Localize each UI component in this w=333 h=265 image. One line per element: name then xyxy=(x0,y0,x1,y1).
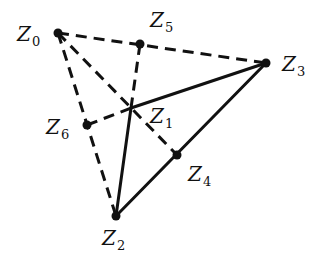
node-label-letter: Z xyxy=(282,52,296,76)
node-label-z3: Z3 xyxy=(282,54,305,74)
node-dot-z4 xyxy=(173,151,182,160)
node-label-subscript: 1 xyxy=(165,116,173,131)
edge-z6-z1-dashed xyxy=(87,108,131,125)
node-label-z5: Z5 xyxy=(150,10,173,30)
node-label-subscript: 3 xyxy=(297,64,305,79)
node-label-letter: Z xyxy=(46,115,60,139)
node-label-subscript: 6 xyxy=(61,127,69,142)
node-dot-z2 xyxy=(112,212,121,221)
edge-z1-z2-solid xyxy=(116,108,131,216)
node-dot-z0 xyxy=(54,29,63,38)
edge-z2-z3-solid xyxy=(116,63,266,216)
node-label-subscript: 4 xyxy=(203,174,211,189)
edge-z0-z3-dashed xyxy=(58,33,266,63)
node-dot-z3 xyxy=(262,59,271,68)
node-label-subscript: 5 xyxy=(165,20,173,35)
node-label-letter: Z xyxy=(150,8,164,32)
node-label-subscript: 2 xyxy=(117,238,125,253)
edge-z5-z1-dashed xyxy=(131,44,140,108)
node-dot-z6 xyxy=(83,121,92,130)
node-label-z4: Z4 xyxy=(188,164,211,184)
node-label-letter: Z xyxy=(17,22,31,46)
node-label-z2: Z2 xyxy=(102,228,125,248)
node-label-letter: Z xyxy=(102,226,116,250)
node-label-letter: Z xyxy=(188,162,202,186)
node-label-subscript: 0 xyxy=(32,34,40,49)
node-dot-z5 xyxy=(136,40,145,49)
node-label-z1: Z1 xyxy=(150,106,173,126)
node-label-z6: Z6 xyxy=(46,117,69,137)
node-label-letter: Z xyxy=(150,104,164,128)
node-label-z0: Z0 xyxy=(17,24,40,44)
